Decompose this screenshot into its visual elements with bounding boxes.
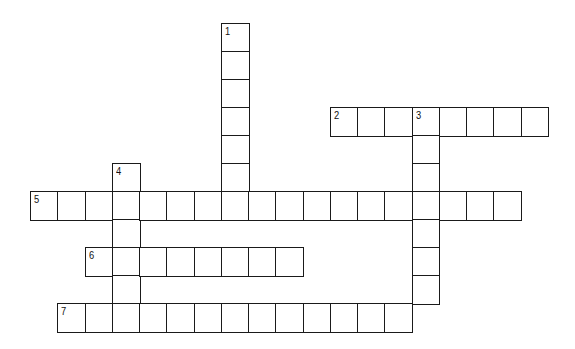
clue-number: 3 bbox=[416, 109, 421, 121]
crossword-cell[interactable] bbox=[493, 191, 522, 221]
crossword-cell[interactable] bbox=[221, 51, 250, 81]
crossword-cell[interactable]: 1 bbox=[221, 23, 250, 53]
crossword-cell[interactable] bbox=[139, 303, 168, 333]
crossword-cell[interactable] bbox=[221, 79, 250, 109]
crossword-cell[interactable] bbox=[57, 191, 86, 221]
crossword-cell[interactable] bbox=[112, 247, 141, 277]
crossword-cell[interactable] bbox=[221, 247, 250, 277]
crossword-cell[interactable] bbox=[112, 275, 141, 305]
crossword-cell[interactable] bbox=[412, 247, 441, 277]
crossword-cell[interactable] bbox=[221, 107, 250, 137]
crossword-cell[interactable] bbox=[248, 191, 277, 221]
crossword-cell[interactable] bbox=[275, 247, 304, 277]
crossword-cell[interactable] bbox=[166, 191, 195, 221]
crossword-cell[interactable] bbox=[303, 303, 332, 333]
crossword-cell[interactable]: 2 bbox=[330, 107, 359, 137]
crossword-cell[interactable] bbox=[412, 135, 441, 165]
crossword-cell[interactable] bbox=[303, 191, 332, 221]
clue-number: 5 bbox=[34, 193, 39, 205]
crossword-cell[interactable] bbox=[248, 247, 277, 277]
crossword-cell[interactable] bbox=[85, 191, 114, 221]
crossword-grid: 1234567 bbox=[0, 0, 575, 349]
crossword-cell[interactable] bbox=[166, 247, 195, 277]
crossword-cell[interactable] bbox=[221, 163, 250, 193]
crossword-cell[interactable] bbox=[466, 107, 495, 137]
crossword-cell[interactable] bbox=[112, 219, 141, 249]
crossword-cell[interactable] bbox=[166, 303, 195, 333]
crossword-cell[interactable] bbox=[412, 219, 441, 249]
crossword-cell[interactable] bbox=[466, 191, 495, 221]
crossword-cell[interactable] bbox=[384, 303, 413, 333]
crossword-cell[interactable] bbox=[493, 107, 522, 137]
crossword-cell[interactable] bbox=[384, 191, 413, 221]
crossword-cell[interactable]: 7 bbox=[57, 303, 86, 333]
crossword-cell[interactable] bbox=[221, 135, 250, 165]
crossword-cell[interactable] bbox=[412, 275, 441, 305]
crossword-cell[interactable] bbox=[357, 191, 386, 221]
crossword-cell[interactable] bbox=[221, 303, 250, 333]
clue-number: 4 bbox=[116, 165, 121, 177]
clue-number: 6 bbox=[89, 249, 94, 261]
crossword-cell[interactable] bbox=[384, 107, 413, 137]
crossword-cell[interactable] bbox=[357, 303, 386, 333]
crossword-cell[interactable] bbox=[330, 303, 359, 333]
clue-number: 1 bbox=[225, 25, 230, 37]
crossword-cell[interactable] bbox=[194, 191, 223, 221]
crossword-cell[interactable] bbox=[112, 191, 141, 221]
crossword-cell[interactable] bbox=[194, 303, 223, 333]
crossword-cell[interactable] bbox=[439, 191, 468, 221]
crossword-cell[interactable] bbox=[412, 163, 441, 193]
crossword-cell[interactable]: 6 bbox=[85, 247, 114, 277]
crossword-cell[interactable] bbox=[521, 107, 550, 137]
crossword-cell[interactable] bbox=[275, 191, 304, 221]
crossword-cell[interactable] bbox=[139, 247, 168, 277]
clue-number: 7 bbox=[61, 305, 66, 317]
crossword-cell[interactable]: 4 bbox=[112, 163, 141, 193]
crossword-cell[interactable] bbox=[412, 191, 441, 221]
crossword-cell[interactable] bbox=[357, 107, 386, 137]
crossword-cell[interactable] bbox=[194, 247, 223, 277]
crossword-cell[interactable] bbox=[275, 303, 304, 333]
crossword-cell[interactable] bbox=[330, 191, 359, 221]
crossword-cell[interactable] bbox=[221, 191, 250, 221]
clue-number: 2 bbox=[334, 109, 339, 121]
crossword-cell[interactable]: 3 bbox=[412, 107, 441, 137]
crossword-cell[interactable] bbox=[139, 191, 168, 221]
crossword-cell[interactable] bbox=[112, 303, 141, 333]
crossword-cell[interactable] bbox=[85, 303, 114, 333]
crossword-cell[interactable] bbox=[439, 107, 468, 137]
crossword-cell[interactable] bbox=[248, 303, 277, 333]
crossword-cell[interactable]: 5 bbox=[30, 191, 59, 221]
